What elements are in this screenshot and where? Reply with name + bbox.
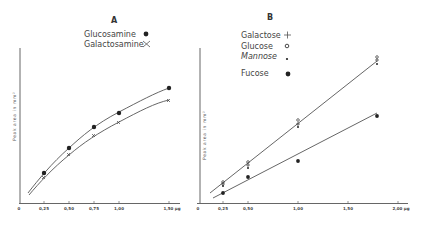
legend-label-galactosamine: Galactosamine (84, 40, 144, 49)
tick-label: 1,00 (293, 206, 303, 211)
legend-label-galactose: Galactose (241, 31, 281, 40)
legend-label-glucose: Glucose (241, 42, 273, 51)
legend-label-glucosamine: Glucosamine (84, 30, 136, 39)
filled-circle-icon (286, 72, 291, 77)
panel-a-tick-labels: 0 0,25 0,50 0,75 1,00 1,50 µg (18, 206, 181, 211)
galactosamine-curve (29, 100, 169, 195)
tick-label: 0,75 (89, 206, 99, 211)
glucosamine-curve (28, 88, 169, 193)
panel-b-legend: Galactose Glucose Mannose Fucose (241, 31, 291, 78)
filled-circle-icon (144, 32, 149, 37)
panel-a-y-label: Peak area in mm² (12, 92, 17, 141)
hexose-fit-line (210, 61, 377, 193)
panel-b-y-label: Peak area in mm² (202, 111, 207, 160)
legend-label-mannose: Mannose (241, 52, 277, 61)
panel-b-tick-labels: 0 0,25 0,50 1,00 1,50 2,00 µg (197, 206, 410, 211)
tick-label: 1,00 (114, 206, 124, 211)
tick-label: 0,50 (243, 206, 253, 211)
fucose-points (221, 114, 379, 195)
galactosamine-points (42, 99, 170, 179)
tick-label: 1,50 (343, 206, 353, 211)
tick-label: 2,00 µg (392, 206, 409, 211)
panel-b: B Galactose Glucose Mannose Fucose Peak … (197, 13, 410, 211)
panel-a: A Glucosamine Galactosamine Peak area in… (12, 16, 181, 211)
tick-label: 0 (18, 206, 21, 211)
x-marker-icon (143, 41, 150, 47)
open-circle-icon (285, 44, 289, 48)
panel-a-legend: Glucosamine Galactosamine (84, 30, 150, 49)
panel-a-title: A (111, 16, 118, 25)
plus-marker-icon (284, 32, 291, 39)
legend-label-fucose: Fucose (241, 69, 269, 78)
tick-label: 0,50 (64, 206, 74, 211)
panel-b-title: B (267, 13, 273, 22)
small-dot-icon (286, 58, 288, 60)
tick-label: 0,25 (218, 206, 228, 211)
figure: A Glucosamine Galactosamine Peak area in… (0, 0, 421, 225)
tick-label: 0 (197, 206, 200, 211)
tick-label: 0,25 (39, 206, 49, 211)
tick-label: 1,50 µg (163, 206, 180, 211)
